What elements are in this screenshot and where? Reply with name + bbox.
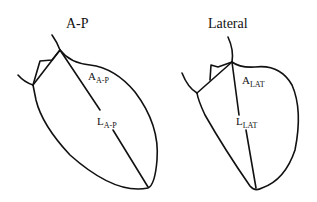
ap-aorta-spike [52,35,60,50]
ap-left-lip [18,75,33,85]
ap-long-axis-lower [113,130,148,187]
ap-title: A-P [66,16,89,31]
lateral-long-axis-lower [246,130,256,188]
ap-area-label: AA-P [88,70,109,85]
lateral-left-lip [182,73,197,93]
lateral-title: Lateral [208,16,248,31]
lateral-view: Lateral ALAT LLAT [182,16,298,190]
ventricle-diagram: A-P AA-P LA-P Lateral ALAT LLAT [0,0,317,202]
ap-length-label: LA-P [97,115,117,130]
lateral-area-label: ALAT [242,74,265,89]
lateral-length-label: LLAT [236,115,258,130]
lateral-long-axis-upper [232,62,239,115]
ap-valve-plane [33,50,60,85]
ap-view: A-P AA-P LA-P [18,16,157,189]
lateral-aorta-spike [228,37,233,62]
